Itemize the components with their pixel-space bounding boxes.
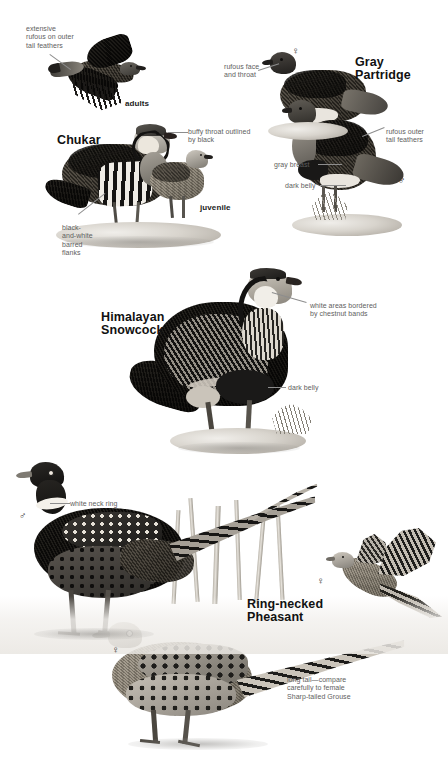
caption-rufous-face-and-throat: rufous face and throat	[224, 63, 259, 80]
male-symbol-gray-partridge: ♂	[398, 176, 406, 186]
gray-partridge-male-eye	[299, 107, 302, 110]
snowcock-white-throat	[254, 286, 278, 308]
gray-partridge-female-eye	[280, 58, 283, 61]
female-symbol-gray-partridge: ♀	[292, 46, 300, 56]
pheasant-female-flight-near-wing	[378, 528, 436, 576]
chukar-flight-eye	[130, 65, 132, 67]
pheasant-female-flight-bill	[326, 557, 335, 562]
female-symbol-pheasant-ground: ♀	[112, 645, 120, 655]
species-label-ring-necked-pheasant: Ring-necked Pheasant	[247, 598, 323, 624]
caption-extensive-rufous-outer-tail-feathers: extensive rufous on outer tail feathers	[26, 25, 74, 50]
snowcock-eye	[276, 277, 280, 281]
caption-gray-breast: gray breast	[274, 161, 310, 169]
female-symbol-pheasant-flight: ♀	[317, 576, 325, 586]
species-label-gray-partridge: Gray Partridge	[355, 56, 411, 82]
caption-white-neck-ring: white neck ring	[70, 500, 117, 508]
caption-black-and-white-barred-flanks: black- and-white barred flanks	[62, 224, 93, 258]
leader-gray-breast	[318, 164, 342, 165]
caption-white-areas-bordered-by-chestnut-bands: white areas bordered by chestnut bands	[310, 302, 377, 319]
pheasant-female-flight-eye	[342, 556, 344, 558]
chukar-juvenile-eye	[200, 154, 202, 156]
snowcock-crown	[250, 268, 286, 279]
caption-long-tail-compare: long tail—compare carefully to female Sh…	[287, 676, 351, 701]
snowcock-ground-shadow	[178, 442, 300, 454]
pheasant-male-long-tail	[166, 496, 321, 563]
pheasant-snow-ground	[0, 596, 448, 654]
chukar-juvenile-mantle	[152, 162, 190, 182]
species-label-chukar: Chukar	[57, 134, 101, 147]
age-label-juvenile: juvenile	[200, 203, 231, 212]
caption-dark-belly-partridge: dark belly	[285, 182, 315, 190]
caption-dark-belly-snowcock: dark belly	[288, 384, 318, 392]
gray-partridge-upper-ground	[268, 122, 348, 140]
caption-buffy-throat-outlined-by-black: buffy throat outlined by black	[188, 128, 250, 145]
pheasant-male-eye	[48, 470, 54, 476]
snowcock-dark-belly	[216, 370, 274, 404]
leader-dark-belly-partridge	[320, 185, 346, 186]
chukar-adult-bill	[164, 132, 178, 139]
pheasant-female-shadow	[128, 738, 268, 750]
pheasant-female-leg-back	[151, 710, 158, 742]
gray-partridge-lower-ground	[292, 214, 402, 236]
pheasant-female-spotted-flank	[126, 674, 236, 716]
leader-white-neck-ring	[50, 503, 70, 504]
pheasant-male-shadow	[34, 628, 154, 640]
chukar-juvenile-leg	[182, 196, 185, 218]
leader-buffy-throat	[168, 132, 188, 133]
age-label-adults: adults	[125, 99, 149, 108]
snowcock-neck-bars	[242, 308, 284, 360]
chukar-juvenile-bill	[204, 155, 213, 160]
male-symbol-snowcock: ♂	[291, 277, 299, 287]
chukar-juvenile-head	[186, 150, 208, 168]
male-symbol-pheasant: ♂	[19, 511, 27, 521]
species-label-himalayan-snowcock: Himalayan Snowcock	[101, 311, 164, 337]
caption-rufous-outer-tail-feathers: rufous outer tail feathers	[386, 128, 424, 145]
pheasant-female-flight-head	[332, 552, 354, 568]
gray-partridge-male-bill	[282, 108, 292, 114]
field-guide-plate: Chukar Gray Partridge Himalayan Snowcock…	[0, 0, 448, 767]
leader-dark-belly-snowcock	[268, 387, 286, 388]
chukar-adult-eye	[156, 132, 159, 135]
snowcock-pale-flank	[186, 386, 220, 408]
gray-partridge-male-head	[288, 100, 316, 124]
